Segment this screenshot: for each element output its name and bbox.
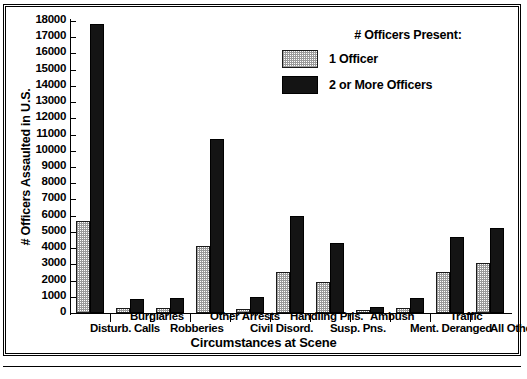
bar-one-officer	[116, 308, 130, 313]
legend-label-one-officer: 1 Officer	[329, 52, 378, 66]
y-tick-mark	[71, 313, 76, 314]
bar-two-or-more-officers	[210, 139, 224, 313]
legend-label-two-or-more-officers: 2 or More Officers	[329, 78, 432, 92]
y-tick-label: 9000	[42, 159, 66, 171]
legend-swatch-two-or-more-officers	[282, 76, 318, 94]
y-tick-label: 6000	[42, 208, 66, 220]
y-tick-label: 5000	[42, 224, 66, 236]
bar-two-or-more-officers	[290, 216, 304, 313]
y-tick-label: 14000	[36, 78, 66, 90]
y-tick-label: 4000	[42, 240, 66, 252]
y-tick-label: 12000	[36, 110, 66, 122]
bar-two-or-more-officers	[450, 237, 464, 313]
legend-entry-one-officer: 1 Officer	[282, 50, 512, 68]
bar-two-or-more-officers	[90, 24, 104, 313]
y-tick-label: 16000	[36, 45, 66, 57]
y-tick-label: 18000	[36, 13, 66, 25]
chart-figure: # Officers Assaulted in U.S. 18000170001…	[0, 0, 527, 379]
y-tick-label: 17000	[36, 29, 66, 41]
x-axis-title: Circumstances at Scene	[0, 335, 527, 350]
bar-one-officer	[436, 272, 450, 313]
y-tick-label: 8000	[42, 175, 66, 187]
bar-two-or-more-officers	[330, 243, 344, 313]
x-group-tick	[110, 313, 111, 322]
bar-one-officer	[196, 246, 210, 313]
y-tick-label: 1000	[42, 289, 66, 301]
y-tick-label: 13000	[36, 94, 66, 106]
y-tick-label: 0	[60, 305, 66, 317]
legend-swatch-one-officer	[282, 50, 318, 68]
figure-bottom-rule	[3, 366, 521, 367]
bar-one-officer	[476, 263, 490, 313]
y-tick-label: 15000	[36, 62, 66, 74]
y-tick-label: 11000	[36, 127, 66, 139]
y-tick-label: 7000	[42, 191, 66, 203]
y-tick-label: 10000	[36, 143, 66, 155]
legend-entry-two-or-more-officers: 2 or More Officers	[282, 76, 512, 94]
y-tick-label: 3000	[42, 256, 66, 268]
y-axis-title: # Officers Assaulted in U.S.	[19, 37, 33, 297]
bar-two-or-more-officers	[490, 228, 504, 313]
legend: # Officers Present: 1 Officer 2 or More …	[282, 28, 512, 94]
bar-one-officer	[76, 221, 90, 313]
bar-one-officer	[276, 272, 290, 313]
y-tick-label: 2000	[42, 273, 66, 285]
bar-one-officer	[316, 282, 330, 313]
x-group-tick	[190, 313, 191, 322]
legend-title: # Officers Present:	[304, 28, 512, 42]
x-group-tick	[430, 313, 431, 322]
